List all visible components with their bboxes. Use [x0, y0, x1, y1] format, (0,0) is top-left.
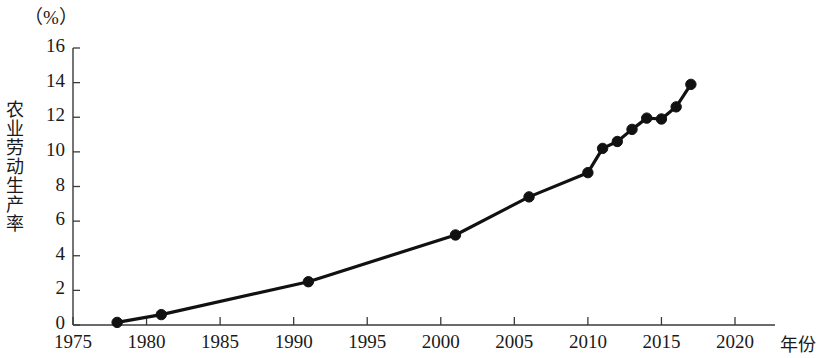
x-tick-label: 1995	[337, 331, 397, 353]
y-tick-label: 12	[35, 104, 65, 126]
data-point	[686, 79, 696, 89]
data-point	[156, 309, 166, 319]
data-markers	[112, 79, 696, 327]
data-point	[656, 114, 666, 124]
x-tick-label: 2020	[705, 331, 765, 353]
x-tick-label: 1985	[190, 331, 250, 353]
x-tick-label: 1990	[264, 331, 324, 353]
series-line	[117, 84, 691, 322]
chart-container: （%） 农业劳动生产率 年份 0246810121416197519801985…	[0, 0, 818, 358]
data-point	[524, 192, 534, 202]
y-tick-label: 2	[35, 277, 65, 299]
data-point	[612, 136, 622, 146]
data-point	[642, 113, 652, 123]
data-point	[597, 143, 607, 153]
y-tick-label: 4	[35, 243, 65, 265]
data-point	[627, 124, 637, 134]
x-tick-label: 2000	[411, 331, 471, 353]
axis-ticks	[73, 48, 735, 325]
x-tick-label: 2010	[558, 331, 618, 353]
axes	[73, 48, 775, 325]
x-tick-label: 2015	[631, 331, 691, 353]
y-tick-label: 6	[35, 208, 65, 230]
y-tick-label: 14	[35, 70, 65, 92]
y-tick-label: 8	[35, 174, 65, 196]
line-chart-plot	[0, 0, 818, 358]
data-point	[671, 102, 681, 112]
y-tick-label: 10	[35, 139, 65, 161]
x-tick-label: 1975	[43, 331, 103, 353]
data-point	[450, 230, 460, 240]
data-point	[303, 277, 313, 287]
x-tick-label: 1980	[117, 331, 177, 353]
data-point	[583, 167, 593, 177]
data-point	[112, 317, 122, 327]
y-tick-label: 16	[35, 35, 65, 57]
x-tick-label: 2005	[484, 331, 544, 353]
data-line	[117, 84, 691, 322]
